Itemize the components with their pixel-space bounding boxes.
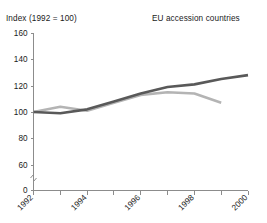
line-chart-plot: 06080100120140160 19921994199619982000 [0,0,267,223]
y-tick-label: 140 [14,55,28,64]
x-axis-labels: 19921994199619982000 [16,193,250,213]
x-tick-label: 2000 [230,193,250,213]
axis-break-icon [31,175,37,182]
x-tick-label: 1996 [123,193,143,213]
series-line-light-series [34,92,222,112]
y-tick-label: 120 [14,82,28,91]
x-tick-label: 1994 [69,193,89,213]
y-axis-labels: 06080100120140160 [14,29,28,195]
x-tick-label: 1998 [177,193,197,213]
chart-container: Index (1992 = 100) EU accession countrie… [0,0,267,223]
y-tick-label: 160 [14,29,28,38]
y-tick-label: 60 [18,161,28,170]
x-tick-label: 1992 [16,193,36,213]
y-tick-label: 100 [14,108,28,117]
y-tick-label: 80 [18,134,28,143]
data-series-group [34,75,249,113]
x-axis-ticks [34,191,249,195]
